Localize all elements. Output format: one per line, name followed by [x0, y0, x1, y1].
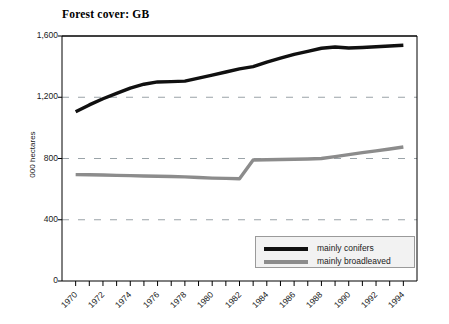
x-axis-tick-labels: 1970197219741976197819801982198419861988…	[0, 0, 449, 324]
legend-swatch	[264, 260, 308, 264]
chart-legend: mainly conifersmainly broadleaved	[255, 236, 415, 268]
legend-label: mainly conifers	[317, 244, 374, 253]
legend-label: mainly broadleaved	[317, 257, 391, 266]
forest-cover-chart: Forest cover: GB 000 hectares 04008001,2…	[0, 0, 449, 324]
legend-item: mainly broadleaved	[264, 255, 391, 268]
legend-swatch	[264, 247, 308, 251]
legend-item: mainly conifers	[264, 242, 374, 255]
